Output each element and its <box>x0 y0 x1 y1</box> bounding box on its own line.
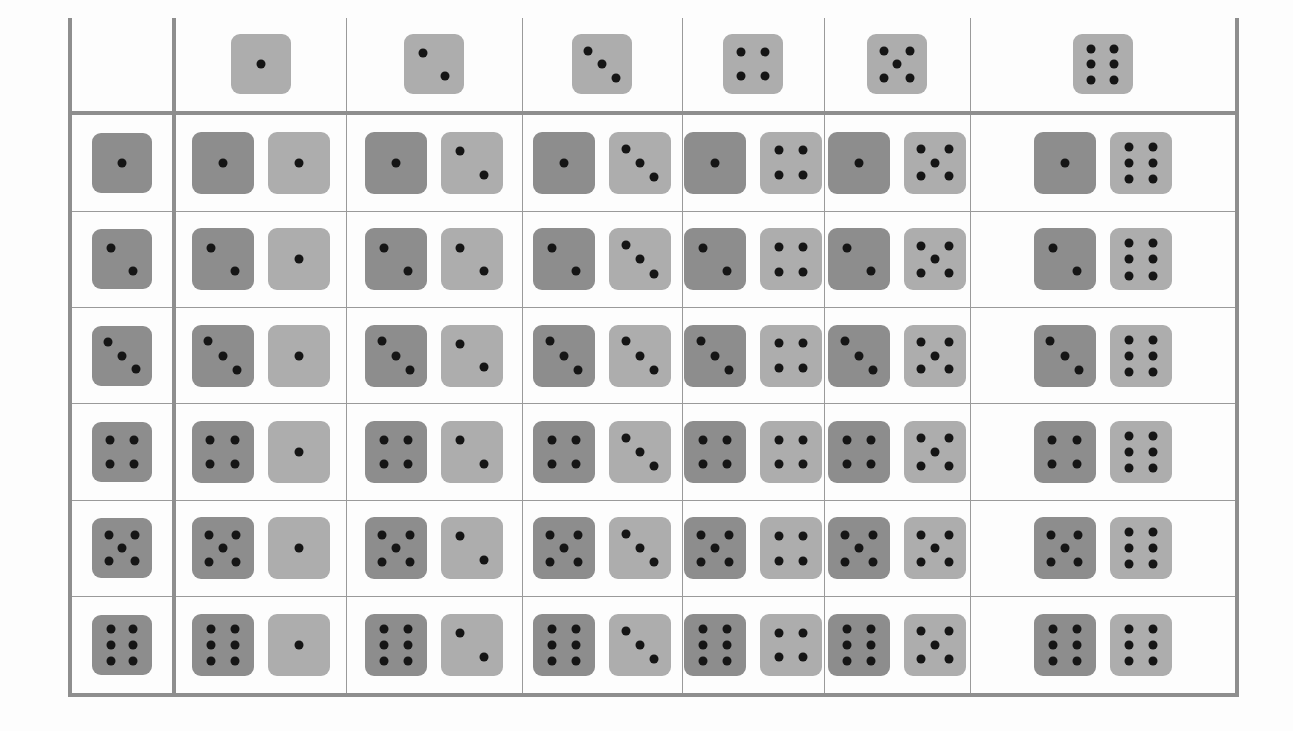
die-pip <box>456 629 465 638</box>
die-pip <box>1048 657 1057 666</box>
die-pip <box>1148 640 1157 649</box>
die-pip <box>548 640 557 649</box>
dice-pair <box>971 115 1236 211</box>
die-pip <box>799 531 808 540</box>
first-die-face <box>684 517 746 579</box>
second-die-face <box>760 614 822 676</box>
die-pip <box>699 640 708 649</box>
column-header-2 <box>346 18 522 113</box>
outcome-cell <box>682 500 824 596</box>
die-pip <box>1124 335 1133 344</box>
die-pip <box>879 73 888 82</box>
die-pip <box>724 530 733 539</box>
second-die-face <box>609 325 671 387</box>
die-pip <box>722 267 731 276</box>
die-pip <box>931 447 940 456</box>
die-pip <box>206 435 215 444</box>
second-die-face <box>867 34 927 94</box>
dice-pair <box>825 308 970 403</box>
first-die-face <box>828 132 890 194</box>
table-row <box>70 596 1237 695</box>
first-die-face <box>365 132 427 194</box>
die-pip <box>774 339 783 348</box>
first-die-face <box>1034 132 1096 194</box>
outcome-cell <box>682 211 824 307</box>
die-pip <box>1124 431 1133 440</box>
die-pip <box>1074 530 1083 539</box>
die-pip <box>843 243 852 252</box>
die-pip <box>799 267 808 276</box>
die-pip <box>1060 351 1069 360</box>
first-die-face <box>828 517 890 579</box>
die-pip <box>104 531 113 540</box>
die-pip <box>774 531 783 540</box>
die-pip <box>294 447 303 456</box>
second-die-face <box>904 517 966 579</box>
die-pip <box>106 459 115 468</box>
second-die-face <box>441 614 503 676</box>
header-die-slot <box>683 18 824 111</box>
second-die-face <box>760 132 822 194</box>
second-die-face <box>441 517 503 579</box>
die-pip <box>621 337 630 346</box>
first-die-face <box>828 614 890 676</box>
die-pip <box>1148 255 1157 264</box>
die-pip <box>917 172 926 181</box>
die-pip <box>799 339 808 348</box>
die-pip <box>404 460 413 469</box>
die-pip <box>403 640 412 649</box>
outcome-cell <box>346 596 522 695</box>
die-pip <box>456 532 465 541</box>
die-pip <box>893 60 902 69</box>
dice-pair <box>971 501 1236 596</box>
second-die-face <box>231 34 291 94</box>
header-die-slot <box>971 18 1236 111</box>
dice-pair <box>347 597 522 693</box>
second-die-face <box>1110 421 1172 483</box>
die-pip <box>441 71 450 80</box>
first-die-face <box>92 229 152 289</box>
dice-pair <box>523 115 682 211</box>
first-die-face <box>533 228 595 290</box>
die-pip <box>944 145 953 154</box>
die-pip <box>479 459 488 468</box>
second-die-face <box>904 325 966 387</box>
die-pip <box>1124 239 1133 248</box>
die-pip <box>1060 544 1069 553</box>
die-pip <box>572 435 581 444</box>
row-header-4 <box>70 404 174 500</box>
die-pip <box>231 460 240 469</box>
outcome-cell <box>682 404 824 500</box>
die-pip <box>737 48 746 57</box>
die-pip <box>379 435 388 444</box>
die-pip <box>842 435 851 444</box>
die-pip <box>944 365 953 374</box>
die-pip <box>1124 464 1133 473</box>
die-pip <box>548 624 557 633</box>
second-die-face <box>1110 132 1172 194</box>
die-pip <box>636 640 645 649</box>
die-pip <box>699 243 708 252</box>
outcome-cell <box>346 500 522 596</box>
outcome-cell <box>174 113 346 212</box>
die-pip <box>1124 271 1133 280</box>
die-pip <box>1074 557 1083 566</box>
die-pip <box>232 530 241 539</box>
die-pip <box>232 557 241 566</box>
dice-pair <box>523 597 682 693</box>
second-die-face <box>572 34 632 94</box>
die-pip <box>650 655 659 664</box>
die-pip <box>843 657 852 666</box>
die-pip <box>206 640 215 649</box>
dice-pair <box>683 212 824 307</box>
first-die-face <box>92 518 152 578</box>
second-die-face <box>268 614 330 676</box>
outcome-cell <box>970 596 1237 695</box>
die-pip <box>479 267 488 276</box>
header-die-slot <box>72 212 172 307</box>
die-pip <box>1087 60 1096 69</box>
row-header-5 <box>70 500 174 596</box>
die-pip <box>723 435 732 444</box>
first-die-face <box>533 421 595 483</box>
die-pip <box>1110 44 1119 53</box>
